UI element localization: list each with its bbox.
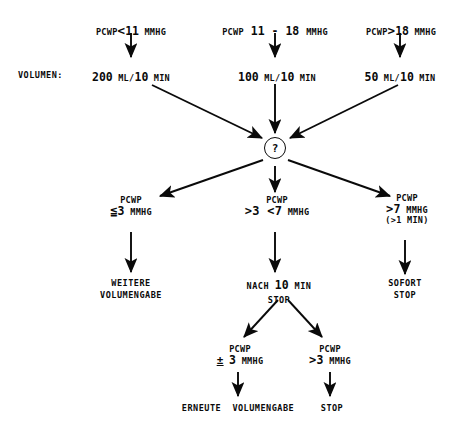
volume-unit-high-tail: MIN — [414, 73, 436, 83]
action-right: SOFORT STOP — [388, 277, 422, 302]
branch-center-unit: MMHG — [288, 207, 310, 217]
branch-right-condition: >7 MMHG — [385, 203, 428, 217]
decision-node-question[interactable]: ? — [264, 137, 286, 159]
criterion-unit-low: MMHG — [139, 27, 166, 37]
criterion-unit-mid: MMHG — [306, 27, 328, 37]
action-sub-right: STOP — [321, 402, 343, 414]
volume-mid: 100 ML/10 MIN — [238, 66, 316, 85]
volume-row-label: VOLUMEN: — [18, 70, 63, 80]
volume-unit-low-tail: MIN — [148, 73, 170, 83]
volume-low: 200 ML/10 MIN — [92, 66, 170, 85]
branch-left-unit: MMHG — [130, 207, 152, 217]
volume-unit-mid-num: 10 — [280, 70, 294, 84]
volume-unit-mid-tail: MIN — [294, 73, 316, 83]
arrow-decision-to-left — [160, 160, 263, 196]
action-center-line2: STOP — [268, 295, 290, 305]
volume-value-low: 200 — [92, 70, 113, 84]
action-sub-left: ERNEUTE VOLUMENGABE — [182, 402, 294, 414]
sub-left-unit: MMHG — [242, 356, 264, 366]
arrow-decision-to-right — [288, 160, 390, 196]
volume-unit-high: ML/ — [378, 73, 400, 83]
arrow-low-to-decision — [152, 85, 262, 138]
action-center: NACH 10 MINSTOP — [247, 277, 312, 306]
criterion-prefix-mid: PCWP — [222, 27, 244, 37]
branch-right-unit: MMHG — [406, 205, 428, 215]
sub-left-value: 3 — [229, 353, 236, 367]
branch-center-condition: >3 <7 MMHG — [245, 205, 310, 219]
volume-unit-low-num: 10 — [134, 70, 148, 84]
volume-unit-low: ML/ — [113, 73, 135, 83]
volume-unit-high-num: 10 — [400, 70, 414, 84]
sub-branch-label-right: PCWP >3 MMHG — [309, 345, 351, 367]
criterion-prefix-low: PCWP — [96, 27, 118, 37]
criterion-header-high: PCWP>18 MMHG — [366, 20, 436, 39]
sub-left-prefix: PCWP — [217, 345, 264, 354]
branch-left-condition: ≦3 MMHG — [110, 205, 152, 219]
branch-left-value: 3 — [118, 204, 125, 218]
branch-right-value: 7 — [394, 202, 401, 216]
action-center-post: MIN — [289, 281, 311, 291]
branch-left-operator: ≦ — [110, 204, 118, 218]
action-center-num: 10 — [275, 278, 289, 292]
action-center-pre: NACH — [247, 281, 275, 291]
sub-branch-label-left: PCWP ± 3 MMHG — [217, 345, 264, 367]
volume-value-mid: 100 — [238, 70, 259, 84]
volume-high: 50 ML/10 MIN — [364, 66, 435, 85]
criterion-prefix-high: PCWP — [366, 27, 388, 37]
branch-label-center: PCWP >3 <7 MMHG — [245, 196, 310, 218]
sub-left-operator: ± — [217, 354, 224, 367]
branch-right-extra: (>1 MIN) — [385, 216, 428, 226]
sub-right-operator: > — [309, 353, 317, 367]
criterion-header-low: PCWP<11 MMHG — [96, 20, 166, 39]
volume-value-high: 50 — [364, 70, 378, 84]
decision-node-label: ? — [272, 142, 279, 155]
sub-right-unit: MMHG — [329, 356, 351, 366]
criterion-header-mid: PCWP 11 - 18 MMHG — [222, 20, 328, 39]
sub-left-condition: ± 3 MMHG — [217, 354, 264, 368]
criterion-value-mid: 11 - 18 — [244, 24, 306, 38]
sub-right-value: 3 — [317, 353, 324, 367]
arrow-high-to-decision — [290, 85, 398, 138]
branch-label-left: PCWP ≦3 MMHG — [110, 196, 152, 218]
criterion-value-high: 18 — [395, 24, 409, 38]
criterion-unit-high: MMHG — [409, 27, 436, 37]
action-left: WEITERE VOLUMENGABE — [100, 277, 162, 302]
branch-center-operator: >3 <7 — [245, 204, 283, 218]
flowchart-canvas: PCWP<11 MMHG PCWP 11 - 18 MMHG PCWP>18 M… — [0, 0, 469, 430]
branch-label-right: PCWP >7 MMHG (>1 MIN) — [385, 194, 428, 226]
criterion-value-low: 11 — [125, 24, 139, 38]
sub-right-condition: >3 MMHG — [309, 354, 351, 368]
volume-unit-mid: ML/ — [259, 73, 281, 83]
